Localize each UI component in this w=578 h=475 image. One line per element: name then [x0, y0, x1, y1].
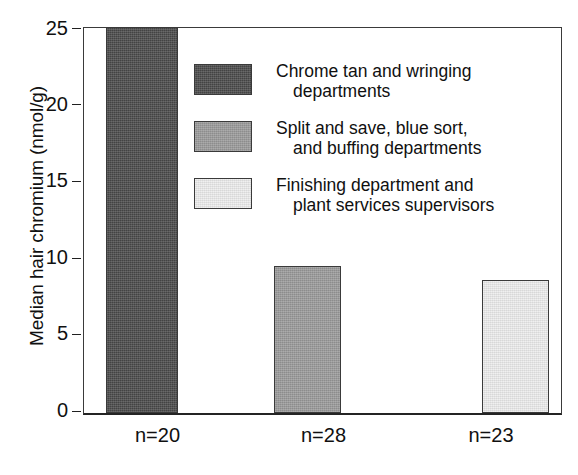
y-tick-mark-20 [72, 104, 81, 105]
figure-caption-partial [0, 459, 578, 475]
x-tick-label-n20: n=20 [75, 424, 240, 446]
y-tick-mark-5 [72, 334, 81, 335]
y-tick-mark-15 [72, 181, 81, 182]
y-tick-mark-10 [72, 258, 81, 259]
legend-label-line2: plant services supervisors [276, 195, 494, 215]
legend-swatch-icon-finishing [194, 178, 252, 209]
legend-label-line1: Finishing department and [276, 175, 494, 195]
legend-item-chrome-tan-wringing[interactable]: Chrome tan and wringing departments [194, 61, 524, 101]
plot-area: Chrome tan and wringing departments Spli… [83, 27, 562, 415]
y-axis-ticks: 25 20 15 10 5 0 [22, 0, 68, 475]
legend-label-chrome-tan: Chrome tan and wringing departments [276, 61, 472, 101]
legend-label-line1: Chrome tan and wringing [276, 61, 472, 81]
legend-swatch-icon-split-save [194, 121, 252, 152]
legend-label-split-save: Split and save, blue sort, and buffing d… [276, 118, 481, 158]
figure-caption-text [96, 459, 345, 466]
legend-label-line2: departments [276, 81, 472, 101]
y-tick-label-0: 0 [22, 400, 68, 420]
bar-split-save-blue-sort-buffing[interactable] [274, 266, 341, 413]
x-tick-label-n28: n=28 [241, 424, 406, 446]
y-tick-label-15: 15 [22, 170, 68, 190]
legend-label-line2: and buffing departments [276, 138, 481, 158]
legend-label-finishing: Finishing department and plant services … [276, 175, 494, 215]
y-tick-label-25: 25 [22, 18, 68, 38]
y-tick-label-5: 5 [22, 323, 68, 343]
bar-chart-figure: Median hair chromium (nmol/g) 25 20 15 1… [0, 0, 578, 475]
legend: Chrome tan and wringing departments Spli… [194, 61, 524, 232]
y-tick-label-10: 10 [22, 247, 68, 267]
bar-finishing-plant-services[interactable] [482, 280, 549, 413]
bar-chrome-tan-wringing[interactable] [106, 27, 178, 413]
legend-swatch-icon-chrome-tan [194, 64, 252, 95]
y-tick-label-20: 20 [22, 94, 68, 114]
y-tick-mark-25 [72, 28, 81, 29]
y-tick-mark-0 [72, 411, 81, 412]
legend-item-finishing-plant-services[interactable]: Finishing department and plant services … [194, 175, 524, 215]
legend-item-split-save-buffing[interactable]: Split and save, blue sort, and buffing d… [194, 118, 524, 158]
x-tick-label-n23: n=23 [416, 424, 566, 446]
legend-label-line1: Split and save, blue sort, [276, 118, 481, 138]
